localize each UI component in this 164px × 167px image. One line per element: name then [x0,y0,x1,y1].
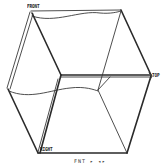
cube-edges-inner [9,11,127,153]
right-face-label[interactable]: RIGHT [40,146,52,152]
cube-edges-bottom [38,76,151,153]
top-face-label[interactable]: TOP [152,72,159,78]
cube-edges-left [7,12,61,153]
diagram-caption: FNT ▸ ◂▸ [74,158,106,164]
cube-wireframe [0,0,164,167]
cube-edges-top [31,10,151,77]
front-face-label[interactable]: FRONT [27,3,39,9]
